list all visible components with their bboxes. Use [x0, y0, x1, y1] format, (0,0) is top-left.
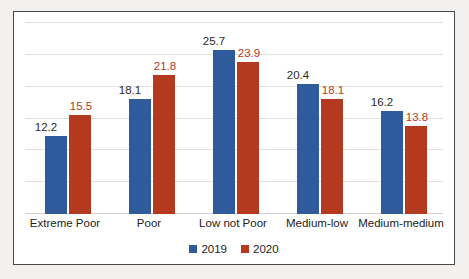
bar-value-label: 20.4	[275, 69, 321, 82]
bar-group: 20.418.1	[279, 23, 363, 214]
bar-2020-medium-low[interactable]	[321, 99, 343, 214]
bar-value-label: 13.8	[394, 111, 440, 124]
bar-value-label: 18.1	[310, 84, 356, 97]
bar-group: 25.723.9	[195, 23, 279, 214]
chart-legend: 20192020	[14, 243, 454, 255]
bar-2020-medium-medium[interactable]	[405, 126, 427, 214]
bar-value-label: 12.2	[23, 121, 69, 134]
bar-2019-medium-low[interactable]	[297, 84, 319, 214]
category-label: Low not Poor	[187, 217, 279, 229]
bar-value-label: 18.1	[107, 84, 153, 97]
legend-item-2019[interactable]: 2019	[189, 243, 227, 255]
bar-2019-extreme-poor[interactable]	[45, 136, 67, 214]
bar-value-label: 15.5	[58, 100, 104, 113]
bar-group: 18.121.8	[111, 23, 195, 214]
category-label: Extreme Poor	[19, 217, 111, 229]
legend-label: 2019	[201, 243, 227, 255]
category-label: Medium-low	[271, 217, 363, 229]
bar-2019-medium-medium[interactable]	[381, 111, 403, 214]
bar-group: 16.213.8	[363, 23, 447, 214]
legend-swatch-icon	[189, 245, 197, 253]
category-axis: Extreme PoorPoorLow not PoorMedium-lowMe…	[25, 217, 443, 235]
bars-layer: 12.215.518.121.825.723.920.418.116.213.8	[25, 23, 443, 214]
bar-2019-poor[interactable]	[129, 99, 151, 214]
legend-item-2020[interactable]: 2020	[241, 243, 279, 255]
bar-2020-extreme-poor[interactable]	[69, 115, 91, 214]
bar-2020-poor[interactable]	[153, 75, 175, 214]
bar-2019-low-not-poor[interactable]	[213, 50, 235, 214]
chart-frame: 12.215.518.121.825.723.920.418.116.213.8…	[13, 11, 455, 265]
bar-value-label: 21.8	[142, 60, 188, 73]
legend-label: 2020	[253, 243, 279, 255]
category-label: Poor	[103, 217, 195, 229]
category-label: Medium-medium	[355, 217, 447, 229]
bar-value-label: 23.9	[226, 47, 272, 60]
bar-2020-low-not-poor[interactable]	[237, 62, 259, 214]
bar-value-label: 16.2	[359, 96, 405, 109]
bar-group: 12.215.5	[27, 23, 111, 214]
legend-swatch-icon	[241, 245, 249, 253]
